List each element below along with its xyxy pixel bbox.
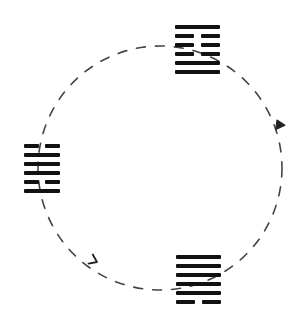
hexagram-line-solid bbox=[176, 255, 221, 259]
arrow-left-to-bottom-icon bbox=[89, 255, 100, 267]
hexagram-line-solid bbox=[24, 171, 60, 175]
hexagram-line-solid bbox=[24, 162, 60, 166]
hexagram-line-broken bbox=[175, 34, 220, 38]
hexagram-line-solid bbox=[24, 153, 60, 157]
hexagram-line-broken bbox=[175, 43, 220, 47]
cycle-path bbox=[38, 46, 282, 290]
hexagram-line-broken bbox=[24, 144, 60, 148]
hexagram-line-broken bbox=[175, 52, 220, 56]
hexagram-line-solid bbox=[24, 189, 60, 193]
hexagram-cycle-diagram: Hexagram transformation cycle Top hexagr… bbox=[0, 0, 304, 329]
hexagram-line-solid bbox=[176, 282, 221, 286]
hexagram-line-broken bbox=[176, 300, 221, 304]
hexagram-line-solid bbox=[176, 264, 221, 268]
hexagram-line-solid bbox=[175, 25, 220, 29]
hexagram-line-broken bbox=[24, 180, 60, 184]
hexagram-line-solid bbox=[176, 273, 221, 277]
hexagram-left: Left hexagram bbox=[24, 144, 60, 198]
hexagram-bottom: Bottom hexagram bbox=[176, 255, 221, 309]
hexagram-line-solid bbox=[175, 61, 220, 65]
hexagram-top: Top hexagram bbox=[175, 25, 220, 79]
hexagram-line-solid bbox=[175, 70, 220, 74]
hexagram-line-solid bbox=[176, 291, 221, 295]
